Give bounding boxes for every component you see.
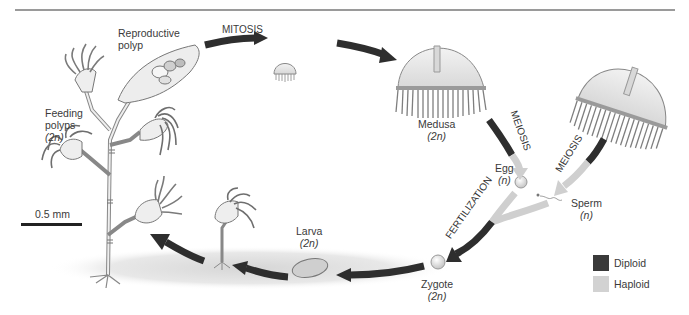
zygote — [431, 255, 445, 269]
medusa-female — [396, 46, 486, 118]
label-sperm: Sperm (n) — [571, 197, 602, 221]
scale-bar — [21, 223, 82, 226]
label-line: Reproductive — [118, 27, 180, 39]
medusa-male — [566, 53, 681, 157]
label-line: (2n) — [296, 237, 322, 249]
legend-label: Diploid — [614, 257, 646, 269]
small-medusa — [274, 64, 296, 83]
life-cycle-illustration — [0, 0, 689, 315]
fertilization-arrow — [446, 193, 548, 262]
legend-swatch-diploid — [593, 255, 609, 271]
label-zygote: Zygote (2n) — [421, 278, 453, 302]
label-line: (2n) — [421, 290, 453, 302]
label-line: Feeding — [45, 107, 83, 119]
label-feeding-polyps: Feeding polyps (2n) — [45, 107, 83, 143]
label-line: (n) — [495, 174, 514, 186]
legend-label: Haploid — [614, 278, 650, 290]
label-line: (2n) — [45, 131, 83, 143]
legend-swatch-haploid — [593, 276, 609, 292]
label-line: polyp — [118, 39, 180, 51]
legend-item-haploid: Haploid — [593, 274, 650, 294]
label-line: polyps — [45, 119, 83, 131]
label-reproductive-polyp: Reproductive polyp — [118, 27, 180, 51]
label-egg: Egg (n) — [495, 162, 514, 186]
label-line: Egg — [495, 162, 514, 174]
label-line: (2n) — [418, 130, 455, 142]
label-larva: Larva (2n) — [296, 225, 322, 249]
label-line: (n) — [571, 209, 602, 221]
label-line: Medusa — [418, 118, 455, 130]
legend-item-diploid: Diploid — [593, 253, 650, 273]
label-line: Sperm — [571, 197, 602, 209]
label-mitosis: MITOSIS — [222, 24, 263, 36]
legend: Diploid Haploid — [593, 253, 650, 295]
label-medusa: Medusa (2n) — [418, 118, 455, 142]
label-line: Larva — [296, 225, 322, 237]
scale-bar-label: 0.5 mm — [35, 208, 70, 220]
growth-arrow — [337, 43, 397, 63]
label-line: Zygote — [421, 278, 453, 290]
